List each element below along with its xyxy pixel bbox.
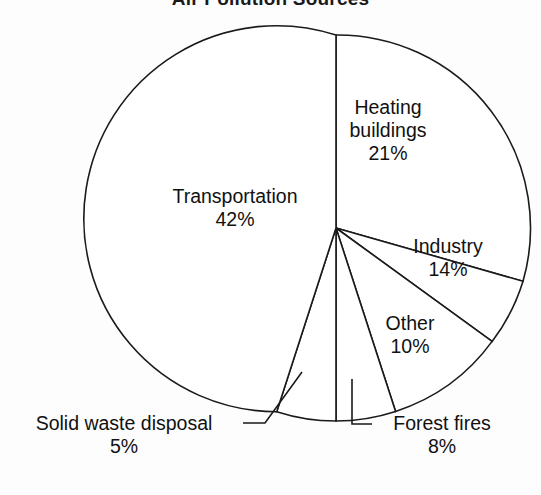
- pie-label-other: Other 10%: [355, 312, 465, 358]
- pie-label-forest-fires-name: Forest fires: [372, 412, 512, 435]
- pie-label-transportation-name: Transportation: [150, 185, 320, 208]
- pie-label-heating-buildings: Heating buildings 21%: [318, 96, 458, 165]
- chart-canvas: Air Pollution Sources Heating buildings …: [0, 0, 541, 495]
- pie-label-solid-waste-disposal: Solid waste disposal 5%: [8, 412, 240, 458]
- pie-label-forest-fires: Forest fires 8%: [372, 412, 512, 458]
- pie-label-other-value: 10%: [355, 335, 465, 358]
- pie-label-industry: Industry 14%: [388, 235, 508, 281]
- pie-label-forest-fires-value: 8%: [372, 435, 512, 458]
- pie-label-transportation-value: 42%: [150, 208, 320, 231]
- pie-label-solid-waste-disposal-value: 5%: [8, 435, 240, 458]
- pie-label-heating-buildings-value: 21%: [318, 142, 458, 165]
- pie-label-industry-name: Industry: [388, 235, 508, 258]
- pie-label-heating-buildings-name-line1: Heating: [318, 96, 458, 119]
- pie-label-solid-waste-disposal-name: Solid waste disposal: [8, 412, 240, 435]
- pie-label-heating-buildings-name-line2: buildings: [318, 119, 458, 142]
- pie-label-industry-value: 14%: [388, 258, 508, 281]
- pie-label-transportation: Transportation 42%: [150, 185, 320, 231]
- pie-label-other-name: Other: [355, 312, 465, 335]
